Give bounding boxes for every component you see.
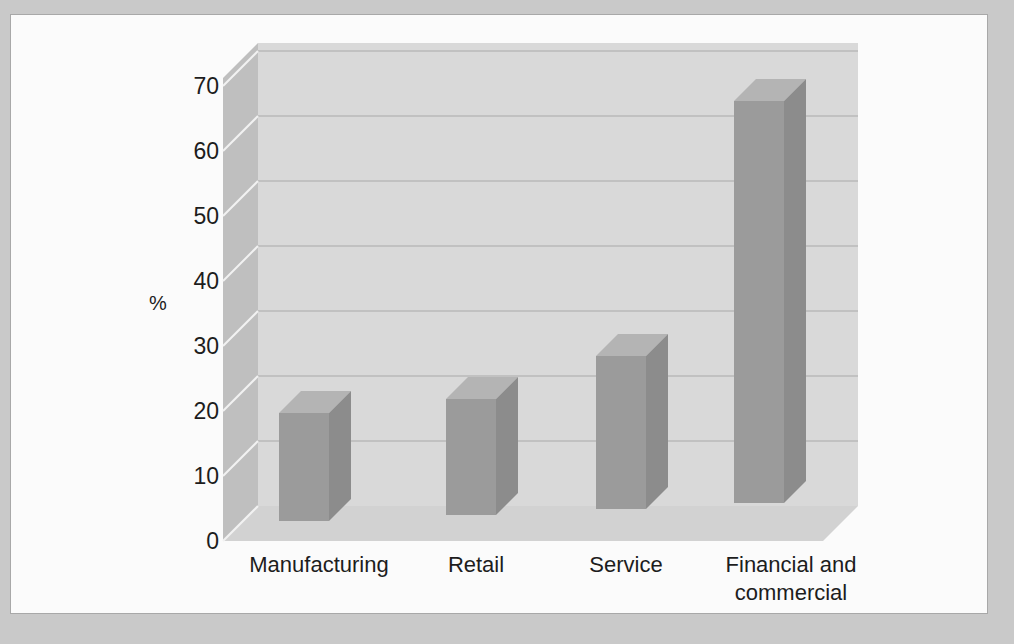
ytick-label-20: 20 [161, 400, 219, 423]
ytick-label-60: 60 [161, 140, 219, 163]
bar-front-face [446, 399, 496, 515]
figure-frame: 70 60 50 40 30 20 10 0 % Manufacturing R… [10, 14, 988, 614]
bar-front-face [279, 413, 329, 521]
bar-side-face [646, 334, 668, 509]
bar-front-face [596, 356, 646, 509]
category-label-line1: Financial and [691, 551, 891, 579]
category-label-line1: Retail [411, 551, 541, 579]
ytick-label-50: 50 [161, 205, 219, 228]
chart-svg [11, 15, 989, 615]
bar-side-face [329, 391, 351, 521]
bar-side-face [784, 79, 806, 503]
screenshot-root: 70 60 50 40 30 20 10 0 % Manufacturing R… [0, 0, 1014, 644]
left-side-wall [223, 43, 258, 541]
ytick-label-0: 0 [161, 530, 219, 553]
ytick-label-10: 10 [161, 465, 219, 488]
category-label-line2: commercial [691, 579, 891, 607]
category-label-service: Service [556, 551, 696, 579]
bar-retail[interactable] [446, 377, 518, 515]
bar-service[interactable] [596, 334, 668, 509]
category-label-retail: Retail [411, 551, 541, 579]
ytick-label-30: 30 [161, 335, 219, 358]
ytick-label-70: 70 [161, 75, 219, 98]
chart-plot-area: 70 60 50 40 30 20 10 0 % Manufacturing R… [11, 15, 989, 615]
category-label-financial-and-commercial: Financial and commercial [691, 551, 891, 607]
bar-side-face [496, 377, 518, 515]
bar-front-face [734, 101, 784, 503]
ytick-label-40: 40 [161, 270, 219, 293]
bar-manufacturing[interactable] [279, 391, 351, 521]
category-label-manufacturing: Manufacturing [224, 551, 414, 579]
category-label-line1: Manufacturing [224, 551, 414, 579]
y-axis-title: % [141, 292, 175, 315]
bar-financial-and-commercial[interactable] [734, 79, 806, 503]
category-label-line1: Service [556, 551, 696, 579]
